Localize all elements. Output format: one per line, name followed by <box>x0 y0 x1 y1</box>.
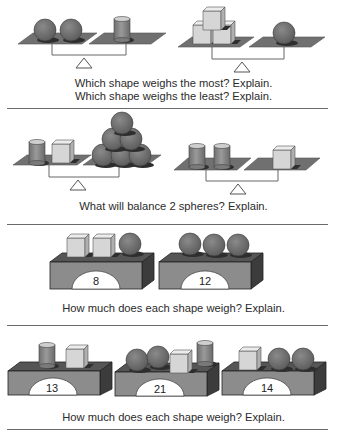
section-divider <box>7 429 328 430</box>
scale-box-13: 13 <box>8 343 112 396</box>
left-plate <box>174 158 251 170</box>
cylinder-shape <box>114 17 134 44</box>
scale-reading: 8 <box>93 275 99 287</box>
scale-box-14: 14 <box>222 347 326 395</box>
cube-shape <box>203 7 231 30</box>
cylinder-shape <box>214 144 234 171</box>
cube-shape <box>52 140 80 163</box>
cube-shape <box>67 234 95 257</box>
cylinder-shape <box>29 140 49 167</box>
scale-reading: 13 <box>46 382 58 394</box>
scale-box-21: 21 <box>115 341 219 397</box>
sphere-shape <box>119 233 144 257</box>
section-divider <box>7 224 328 225</box>
cube-shape <box>239 347 267 370</box>
question-heaviest: Which shape weighs the most? Explain. <box>0 77 347 89</box>
question-shape-weights-1: How much does each shape weigh? Explain. <box>0 302 347 314</box>
section-divider <box>7 325 328 326</box>
cube-shape <box>93 234 121 257</box>
balance-scale-cubes-vs-sphere <box>178 7 325 72</box>
sphere-shape <box>292 348 317 372</box>
balance-scale-cylinder-cube-vs-spheres <box>13 112 161 190</box>
question-lightest: Which shape weighs the least? Explain. <box>0 90 347 102</box>
question-balance-spheres: What will balance 2 spheres? Explain. <box>0 200 347 212</box>
section-divider <box>7 108 328 109</box>
sphere-shape <box>268 348 293 372</box>
sphere-shape <box>147 346 172 370</box>
balance-scale-cylinders-vs-cube <box>174 144 320 195</box>
cylinder-shape <box>197 341 217 368</box>
sphere-shape <box>111 112 136 136</box>
scale-reading: 12 <box>199 275 211 287</box>
cylinder-shape <box>39 343 59 370</box>
sphere-shape <box>126 349 151 373</box>
sphere-shape <box>227 234 252 258</box>
sphere-shape <box>203 234 228 258</box>
question-shape-weights-2: How much does each shape weigh? Explain. <box>0 411 347 423</box>
sphere-shape <box>273 22 298 46</box>
balance-scale-spheres-vs-cylinder <box>18 17 166 69</box>
sphere-shape <box>179 233 204 257</box>
cube-shape <box>170 350 198 373</box>
sphere-shape <box>60 19 85 43</box>
cube-shape <box>273 146 301 169</box>
sphere-shape <box>34 19 59 43</box>
scale-box-12: 12 <box>159 233 263 289</box>
cylinder-shape <box>189 144 209 171</box>
cube-shape <box>66 345 94 368</box>
scale-reading: 21 <box>154 383 166 395</box>
worksheet: 8 12 13 21 14 <box>0 0 347 448</box>
scale-reading: 14 <box>261 382 273 394</box>
scale-box-8: 8 <box>50 233 154 289</box>
